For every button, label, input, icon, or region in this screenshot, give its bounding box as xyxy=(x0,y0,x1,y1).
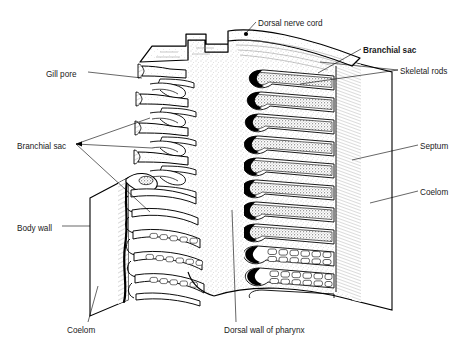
diagram-canvas: Dorsal nerve cord Branchial sac Skeletal… xyxy=(0,0,472,349)
leader-gill-pore xyxy=(88,72,142,78)
label-coelom-bottom: Coelom xyxy=(67,326,95,335)
right-body-wall-flap xyxy=(352,62,392,310)
label-branchial-sac-right: Branchial sac xyxy=(363,46,417,55)
label-septum: Septum xyxy=(420,142,448,151)
label-body-wall: Body wall xyxy=(17,224,52,233)
anatomical-diagram: Dorsal nerve cord Branchial sac Skeletal… xyxy=(0,0,472,349)
leader-branchial-sac-left-b xyxy=(76,144,152,148)
label-skeletal-rods: Skeletal rods xyxy=(400,67,447,76)
label-coelom-right: Coelom xyxy=(420,188,448,197)
label-gill-pore: Gill pore xyxy=(46,70,77,79)
label-dorsal-wall-of-pharynx: Dorsal wall of pharynx xyxy=(224,326,305,335)
dorsal-nerve-cord-marker xyxy=(244,32,248,36)
label-dorsal-nerve-cord: Dorsal nerve cord xyxy=(258,19,323,28)
label-branchial-sac-left: Branchial sac xyxy=(17,142,66,151)
